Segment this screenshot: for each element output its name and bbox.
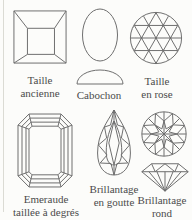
emerald-cut-icon — [16, 112, 74, 189]
label-brillantage-rond: Brillantage rond — [132, 194, 192, 220]
label-cabochon: Cabochon — [68, 89, 130, 102]
round-brilliant-top-icon — [140, 110, 188, 158]
label-taille-en-rose: Taille en rose — [128, 75, 186, 101]
label-line: ancienne — [6, 87, 74, 100]
label-line: Taille — [6, 74, 74, 87]
label-line: rond — [132, 207, 192, 220]
page-edge-line — [3, 0, 4, 212]
label-line: en rose — [128, 88, 186, 101]
gem-cuts-diagram: Taille ancienne Cabochon Taille en rose … — [0, 0, 192, 220]
rose-cut-icon — [128, 10, 184, 66]
label-line: Brillantage — [132, 194, 192, 207]
label-emeraude: Emeraude taillée à degrés — [2, 193, 90, 219]
label-line: Taille — [128, 75, 186, 88]
label-line: Emeraude — [2, 193, 90, 206]
label-line: Cabochon — [68, 89, 130, 102]
label-line: taillée à degrés — [2, 206, 90, 219]
cabochon-icon — [76, 8, 124, 86]
table-cut-icon — [12, 9, 68, 65]
pear-cut-icon — [95, 109, 133, 177]
label-taille-ancienne: Taille ancienne — [6, 74, 74, 100]
